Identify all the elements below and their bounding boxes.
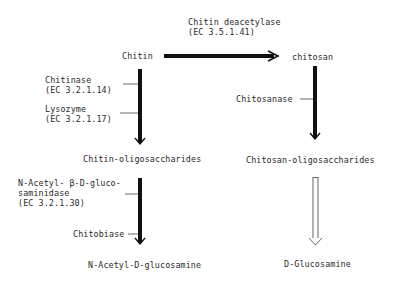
arrow-chitin-hydrolysis [135, 69, 145, 144]
node-chitosan: chitosan [292, 52, 333, 62]
enzyme-chitin-deacetylase: Chitin deacetylase [188, 17, 281, 27]
enzyme-nag-ec: (EC 3.2.1.30) [18, 198, 85, 208]
enzyme-nag-line2: saminidase [18, 188, 69, 198]
arrow-deacetylation [164, 51, 278, 61]
arrow-chitosan-hydrolysis [310, 66, 320, 139]
enzyme-chitobiase: Chitobiase [73, 229, 124, 239]
node-d-glucosamine: D-Glucosamine [284, 259, 351, 269]
enzyme-chitosanase: Chitosanase [236, 94, 293, 104]
node-chitosan-oligosaccharides: Chitosan-oligosaccharides [246, 155, 375, 165]
arrows-layer [0, 0, 396, 281]
node-chitin: Chitin [122, 51, 153, 61]
enzyme-lysozyme: Lysozyme [45, 104, 86, 114]
node-n-acetyl-d-glucosamine: N-Acetyl-D-glucosamine [88, 260, 201, 270]
enzyme-chitin-deacetylase-ec: (EC 3.5.1.41) [188, 27, 255, 37]
node-chitin-oligosaccharides: Chitin-oligosaccharides [83, 154, 201, 164]
arrow-hollow-to-glucosamine [309, 178, 322, 246]
enzyme-nag-line1: N-Acetyl- β-D-gluco- [18, 178, 121, 188]
enzyme-chitinase-ec: (EC 3.2.1.14) [45, 85, 112, 95]
enzyme-lysozyme-ec: (EC 3.2.1.17) [45, 114, 112, 124]
enzyme-chitinase: Chitinase [45, 75, 91, 85]
